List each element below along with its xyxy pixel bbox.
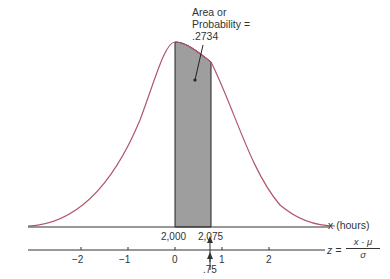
z-tick-2: 2 [266, 254, 272, 265]
shaded-area [175, 42, 211, 227]
area-annotation: Area or Probability = .2734 [192, 6, 250, 42]
z-tick-0: 0 [172, 254, 178, 265]
z-axis-prefix: z = [327, 244, 341, 256]
z-tick-m2: −2 [72, 254, 83, 265]
annotation-line2: Probability = [192, 18, 250, 30]
z-formula-denominator: σ [346, 249, 380, 260]
annotation-line3: .2734 [192, 30, 250, 42]
z-tick-1: 1 [219, 254, 225, 265]
x-tick-mean: 2,000 [161, 231, 186, 242]
z-formula: x - μ σ [346, 236, 380, 260]
z-tick-m1: −1 [119, 254, 130, 265]
z-marker-label: .75 [203, 264, 217, 275]
x-axis-label: x (hours) [328, 219, 369, 231]
annotation-line1: Area or [192, 6, 250, 18]
x-tick-upper: 2,075 [198, 231, 223, 242]
z-formula-numerator: x - μ [346, 236, 380, 249]
